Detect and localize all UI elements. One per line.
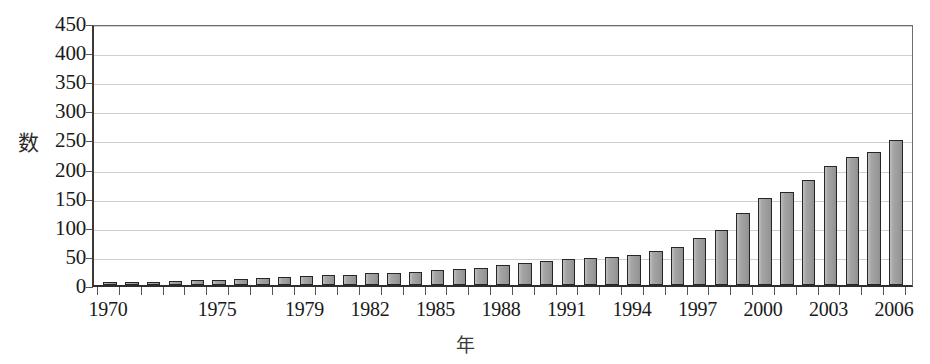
bar xyxy=(191,280,205,285)
y-axis-tick-label: 50 xyxy=(36,247,86,268)
x-axis-tick-mark xyxy=(206,287,207,295)
x-axis-tick-mark xyxy=(141,287,142,295)
bar xyxy=(562,259,576,285)
y-axis-tick-label: 450 xyxy=(36,14,86,35)
x-axis-tick-mark xyxy=(119,287,120,295)
bar xyxy=(234,279,248,285)
x-axis-tick-mark xyxy=(359,287,360,295)
bar xyxy=(780,192,794,285)
x-axis-tick-label: 1985 xyxy=(400,298,470,320)
bar xyxy=(758,198,772,285)
bar xyxy=(278,277,292,285)
x-axis-tick-label: 1979 xyxy=(269,298,339,320)
x-axis-tick-mark xyxy=(818,287,819,295)
x-axis-tick-mark xyxy=(294,287,295,295)
y-axis-tick-label: 400 xyxy=(36,43,86,64)
x-axis-tick-label: 1975 xyxy=(182,298,252,320)
x-axis-tick-mark xyxy=(272,287,273,295)
bar xyxy=(715,230,729,285)
bar xyxy=(212,280,226,285)
plot-area xyxy=(92,25,913,287)
x-axis-tick-label: 1988 xyxy=(466,298,536,320)
bar xyxy=(474,268,488,285)
bar xyxy=(431,270,445,285)
bar xyxy=(365,273,379,285)
x-axis-tick-label: 1994 xyxy=(597,298,667,320)
x-axis-tick-mark xyxy=(621,287,622,295)
x-axis-tick-mark xyxy=(599,287,600,295)
bar-chart: 数 450400350300250200150100500 1970197519… xyxy=(0,0,930,364)
y-axis-tick-label: 200 xyxy=(36,160,86,181)
bar xyxy=(300,276,314,285)
bars-layer xyxy=(94,26,912,285)
y-axis-tick-label: 250 xyxy=(36,130,86,151)
x-axis-title: 年 xyxy=(0,330,930,357)
x-axis-tick-mark xyxy=(381,287,382,295)
bar xyxy=(496,265,510,285)
x-axis-tick-mark xyxy=(425,287,426,295)
bar xyxy=(605,257,619,285)
x-axis-tick-mark xyxy=(403,287,404,295)
x-axis-tick-mark xyxy=(556,287,557,295)
x-axis-tick-mark xyxy=(337,287,338,295)
x-axis-tick-mark xyxy=(883,287,884,295)
y-axis-tick-label: 100 xyxy=(36,218,86,239)
bar xyxy=(802,180,816,285)
x-axis-tick-mark xyxy=(796,287,797,295)
x-axis-tick-mark xyxy=(708,287,709,295)
y-axis-tick-label: 350 xyxy=(36,72,86,93)
bar xyxy=(169,281,183,285)
x-axis-tick-labels: 1970197519791982198519881991199419972000… xyxy=(0,298,930,328)
x-axis-tick-mark xyxy=(905,287,906,295)
x-axis-tick-mark xyxy=(250,287,251,295)
x-axis-tick-mark xyxy=(228,287,229,295)
bar xyxy=(867,152,881,285)
x-axis-tick-label: 2006 xyxy=(859,298,929,320)
x-axis-tick-mark xyxy=(163,287,164,295)
x-axis-tick-mark xyxy=(730,287,731,295)
y-axis-tick-label: 150 xyxy=(36,189,86,210)
bar xyxy=(322,275,336,285)
bar xyxy=(343,275,357,285)
x-axis-tick-label: 1991 xyxy=(531,298,601,320)
x-axis-tick-label: 2000 xyxy=(728,298,798,320)
x-axis-tick-mark xyxy=(315,287,316,295)
x-axis-tick-mark xyxy=(97,287,98,295)
bar xyxy=(846,157,860,285)
bar xyxy=(453,269,467,285)
x-axis-tick-mark xyxy=(752,287,753,295)
x-axis-tick-marks xyxy=(92,287,913,296)
bar xyxy=(584,258,598,285)
x-axis-tick-mark xyxy=(490,287,491,295)
bar xyxy=(256,278,270,285)
x-axis-tick-mark xyxy=(665,287,666,295)
y-axis-tick-label: 300 xyxy=(36,101,86,122)
x-axis-tick-mark xyxy=(577,287,578,295)
x-axis-tick-label: 1982 xyxy=(335,298,405,320)
x-axis-tick-mark xyxy=(512,287,513,295)
bar xyxy=(889,140,903,285)
bar xyxy=(518,263,532,285)
x-axis-tick-mark xyxy=(184,287,185,295)
bar xyxy=(147,282,161,285)
bar xyxy=(409,272,423,285)
x-axis-tick-mark xyxy=(839,287,840,295)
bar xyxy=(103,282,117,285)
x-axis-tick-label: 1997 xyxy=(662,298,732,320)
bar xyxy=(824,166,838,285)
bar xyxy=(736,213,750,285)
bar xyxy=(627,255,641,285)
x-axis-tick-label: 2003 xyxy=(793,298,863,320)
x-axis-tick-mark xyxy=(446,287,447,295)
x-axis-tick-label: 1970 xyxy=(73,298,143,320)
bar xyxy=(649,251,663,285)
x-axis-tick-mark xyxy=(534,287,535,295)
x-axis-tick-mark xyxy=(687,287,688,295)
bar xyxy=(387,273,401,285)
y-axis-tick-label: 0 xyxy=(36,276,86,297)
bar xyxy=(540,261,554,285)
x-axis-tick-mark xyxy=(861,287,862,295)
x-axis-tick-mark xyxy=(643,287,644,295)
x-axis-tick-mark xyxy=(774,287,775,295)
bar xyxy=(693,238,707,285)
